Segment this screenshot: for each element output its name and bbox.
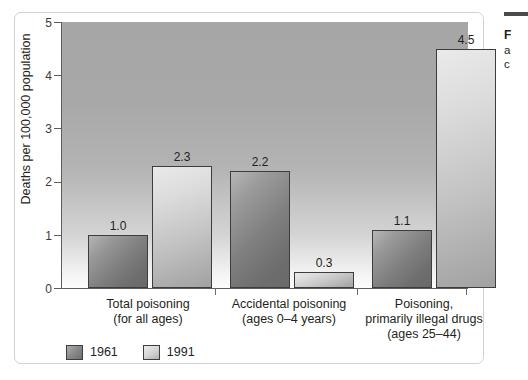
bar-1961-illegal-drugs[interactable]: 1.1 [372,230,432,288]
group-separator-3 [466,288,467,295]
x-axis-line [61,288,468,289]
y-tick-label-0: 0 [12,283,52,295]
category-label-line: Total poisoning [78,297,218,312]
caption-line-2: c [504,58,510,70]
category-label-line: primarily illegal drugs [352,312,496,327]
bar-1961-accidental-poisoning[interactable]: 2.2 [230,171,290,288]
legend-swatch-icon-1961 [66,345,83,360]
bar-value-1961-total-poisoning: 1.0 [110,220,127,232]
y-tick-label-3: 3 [12,123,52,135]
category-label-line: Accidental poisoning [218,297,360,312]
category-label-accidental-poisoning: Accidental poisoning (ages 0–4 years) [218,297,360,327]
bar-1961-total-poisoning[interactable]: 1.0 [88,235,148,288]
bar-value-1961-accidental-poisoning: 2.2 [252,156,269,168]
legend-label-1961: 1961 [90,346,118,359]
caption-rule [504,12,528,16]
category-label-illegal-drugs: Poisoning, primarily illegal drugs (ages… [352,297,496,342]
bar-value-1991-accidental-poisoning: 0.3 [316,257,333,269]
category-label-total-poisoning: Total poisoning (for all ages) [78,297,218,327]
bar-1991-accidental-poisoning[interactable]: 0.3 [294,272,354,288]
y-tick-label-1: 1 [12,230,52,242]
bar-value-1991-total-poisoning: 2.3 [174,151,191,163]
legend-label-1991: 1991 [167,346,195,359]
y-tick-label-2: 2 [12,176,52,188]
figure-root: Deaths per 100,000 population 5 4 3 2 1 … [0,0,528,380]
plot-area: 1.0 2.3 2.2 0.3 1.1 4.5 [62,22,468,288]
bar-value-1961-illegal-drugs: 1.1 [394,215,411,227]
category-label-line: Poisoning, [352,297,496,312]
y-tick-label-4: 4 [12,70,52,82]
caption-line-1: a [504,44,510,56]
y-axis-line [61,22,62,289]
group-separator-1 [215,288,216,295]
y-axis-tick-group: 5 4 3 2 1 0 [8,0,52,300]
legend-item-1961[interactable]: 1961 [66,345,118,360]
legend-swatch-icon-1991 [143,345,160,360]
caption-block: F a c [500,8,528,78]
bar-1991-illegal-drugs[interactable]: 4.5 [436,49,496,288]
bar-value-1991-illegal-drugs: 4.5 [458,34,475,46]
y-tick-label-5: 5 [12,17,52,29]
category-label-line: (ages 0–4 years) [218,312,360,327]
legend-item-1991[interactable]: 1991 [143,345,195,360]
legend: 1961 1991 [66,345,211,360]
group-separator-2 [357,288,358,295]
bar-1991-total-poisoning[interactable]: 2.3 [152,166,212,288]
category-label-line: (for all ages) [78,312,218,327]
caption-title: F [504,28,511,42]
category-label-line: (ages 25–44) [352,327,496,342]
